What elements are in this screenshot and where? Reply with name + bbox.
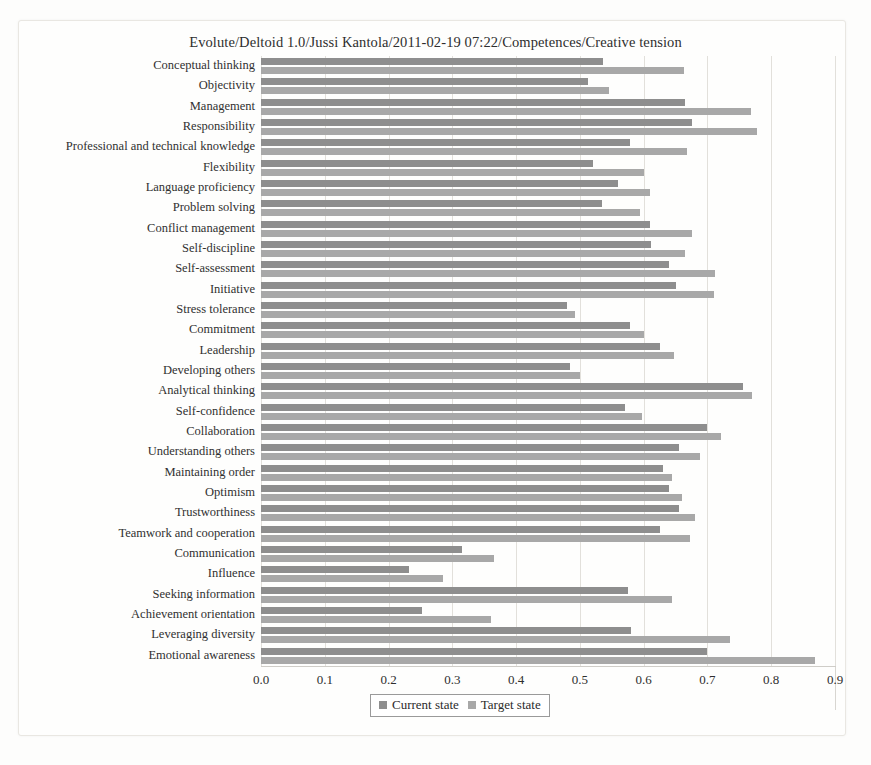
bar-target-state [261,413,642,420]
bar-group [261,261,835,278]
bar-current-state [261,200,602,207]
bar-target-state [261,148,687,155]
bar-group [261,200,835,217]
bar-group [261,546,835,563]
bar-target-state [261,291,714,298]
bar-current-state [261,221,650,228]
category-label: Flexibility [0,161,255,173]
bar-current-state [261,302,567,309]
category-label: Conflict management [0,222,255,234]
bar-target-state [261,596,672,603]
category-label: Initiative [0,283,255,295]
category-label: Conceptual thinking [0,59,255,71]
bar-group [261,302,835,319]
x-axis-ticks: 0.00.10.20.30.40.50.60.70.80.9 [0,672,871,692]
bar-current-state [261,261,669,268]
gridline-0.9 [835,56,836,666]
bar-group [261,282,835,299]
category-label: Responsibility [0,120,255,132]
bar-target-state [261,250,685,257]
bar-group [261,343,835,360]
category-label: Self-assessment [0,262,255,274]
bar-group [261,404,835,421]
bar-current-state [261,404,625,411]
bar-target-state [261,87,609,94]
category-label: Achievement orientation [0,608,255,620]
legend-item-target: Target state [468,697,541,713]
bar-group [261,363,835,380]
category-label: Understanding others [0,445,255,457]
bar-target-state [261,535,690,542]
category-label: Self-discipline [0,242,255,254]
plot-area [261,56,835,666]
x-tick-label: 0.4 [486,672,546,688]
bar-current-state [261,444,679,451]
bar-target-state [261,392,752,399]
bar-current-state [261,383,743,390]
bar-group [261,139,835,156]
bar-target-state [261,270,715,277]
bar-group [261,78,835,95]
bar-current-state [261,485,669,492]
bar-target-state [261,575,443,582]
bar-target-state [261,67,684,74]
bar-group [261,424,835,441]
bar-target-state [261,128,757,135]
category-label: Stress tolerance [0,303,255,315]
bar-group [261,587,835,604]
category-label: Collaboration [0,425,255,437]
category-label: Problem solving [0,201,255,213]
category-axis-labels: Conceptual thinkingObjectivityManagement… [0,56,255,666]
bar-current-state [261,241,651,248]
bar-current-state [261,78,588,85]
bar-group [261,566,835,583]
bar-current-state [261,58,603,65]
bar-group [261,444,835,461]
category-label: Emotional awareness [0,649,255,661]
category-label: Seeking information [0,588,255,600]
category-label: Teamwork and cooperation [0,527,255,539]
category-label: Self-confidence [0,405,255,417]
bar-current-state [261,648,707,655]
category-label: Language proficiency [0,181,255,193]
bar-group [261,58,835,75]
bar-current-state [261,119,692,126]
bar-target-state [261,616,491,623]
bar-group [261,505,835,522]
bar-group [261,383,835,400]
category-label: Optimism [0,486,255,498]
legend-swatch-icon [468,701,476,709]
chart-title: Evolute/Deltoid 1.0/Jussi Kantola/2011-0… [0,34,871,51]
bar-target-state [261,636,730,643]
bar-current-state [261,424,707,431]
category-label: Leveraging diversity [0,628,255,640]
chart-legend: Current stateTarget state [370,694,550,717]
bar-target-state [261,657,815,664]
bar-target-state [261,209,640,216]
bar-current-state [261,627,631,634]
category-label: Management [0,100,255,112]
bar-target-state [261,372,580,379]
bar-group [261,241,835,258]
bar-current-state [261,343,660,350]
x-tick-label: 0.7 [677,672,737,688]
x-tick-label: 0.5 [550,672,610,688]
bar-current-state [261,282,676,289]
bar-target-state [261,108,751,115]
bar-target-state [261,514,695,521]
bar-group [261,485,835,502]
category-label: Developing others [0,364,255,376]
bar-target-state [261,453,700,460]
bar-target-state [261,433,721,440]
scanned-page: Evolute/Deltoid 1.0/Jussi Kantola/2011-0… [0,0,871,765]
bar-current-state [261,587,628,594]
x-tick-label: 0.3 [422,672,482,688]
x-tick-label: 0.2 [359,672,419,688]
bar-target-state [261,311,575,318]
bar-current-state [261,180,618,187]
bar-target-state [261,494,682,501]
category-label: Commitment [0,323,255,335]
bar-group [261,465,835,482]
x-tick-label: 0.6 [614,672,674,688]
bar-current-state [261,566,409,573]
